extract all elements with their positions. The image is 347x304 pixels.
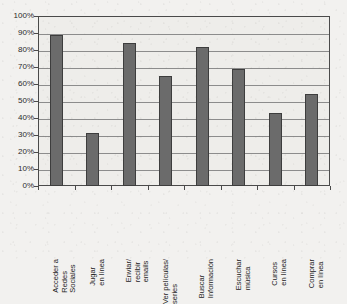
y-axis-tick-label: 50%: [0, 97, 34, 105]
x-axis-tick-mark: [38, 186, 39, 190]
y-axis: 100%90%80%70%60%50%40%30%20%10%0%: [0, 0, 34, 261]
x-axis: Acceder a Redes SocialesJugar en líneaEn…: [38, 188, 330, 261]
x-axis-tick-label: Ver películas/ series: [162, 259, 179, 304]
bar: [196, 47, 209, 186]
y-axis-tick-mark: [34, 169, 38, 170]
y-axis-tick-mark: [34, 84, 38, 85]
y-axis-tick-label: 20%: [0, 148, 34, 156]
y-axis-tick-label: 100%: [0, 12, 34, 20]
x-axis-tick-mark: [111, 186, 112, 190]
x-axis-tick-mark: [330, 186, 331, 190]
x-axis-tick-mark: [221, 186, 222, 190]
bar: [159, 76, 172, 187]
y-axis-tick-label: 10%: [0, 165, 34, 173]
x-axis-tick-mark: [148, 186, 149, 190]
bars-group: [38, 16, 330, 186]
y-axis-tick-mark: [34, 33, 38, 34]
bar: [50, 35, 63, 186]
y-axis-tick-label: 0%: [0, 182, 34, 190]
x-axis-tick-label: Buscar Información: [198, 259, 215, 298]
y-axis-tick-label: 90%: [0, 29, 34, 37]
y-axis-tick-label: 40%: [0, 114, 34, 122]
y-axis-tick-label: 30%: [0, 131, 34, 139]
x-axis-tick-mark: [75, 186, 76, 190]
bar: [232, 69, 245, 186]
y-axis-tick-mark: [34, 135, 38, 136]
bar: [123, 43, 136, 186]
x-axis-tick-label: Escuchar música: [235, 259, 252, 290]
x-axis-tick-label: Cursos en línea: [271, 259, 288, 286]
y-axis-tick-mark: [34, 50, 38, 51]
x-axis-tick-mark: [257, 186, 258, 190]
x-axis-tick-mark: [184, 186, 185, 190]
y-axis-tick-mark: [34, 118, 38, 119]
x-axis-tick-label: Jugar en línea: [89, 259, 106, 286]
y-axis-tick-mark: [34, 67, 38, 68]
x-axis-tick-mark: [294, 186, 295, 190]
bar: [86, 133, 99, 186]
x-axis-tick-label: Acceder a Redes Sociales: [52, 259, 78, 293]
bar: [305, 94, 318, 186]
y-axis-tick-mark: [34, 16, 38, 17]
bar: [269, 113, 282, 186]
y-axis-tick-label: 70%: [0, 63, 34, 71]
x-axis-tick-label: Comprar en línea: [308, 259, 325, 288]
x-axis-tick-label: Enviar/ recibir emails: [125, 259, 151, 282]
y-axis-tick-mark: [34, 152, 38, 153]
y-axis-tick-label: 60%: [0, 80, 34, 88]
y-axis-tick-label: 80%: [0, 46, 34, 54]
y-axis-tick-mark: [34, 101, 38, 102]
